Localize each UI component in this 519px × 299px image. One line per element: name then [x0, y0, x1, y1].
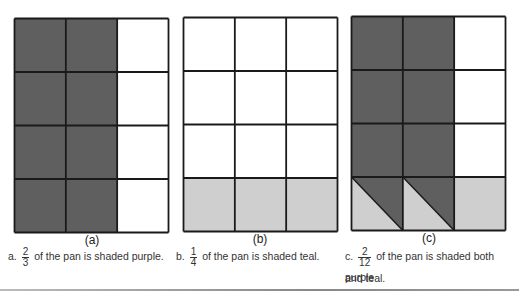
pan-grid-c [350, 15, 508, 232]
fraction-a-denominator: 3 [22, 258, 30, 268]
pan-grid-a [13, 17, 171, 234]
fraction-a: 23 [22, 247, 30, 268]
fraction-c-denominator: 12 [358, 258, 371, 268]
caption-b-text: of the pan is shaded teal. [202, 250, 319, 262]
fraction-b: 14 [190, 247, 198, 268]
caption-b-prefix: b. [176, 250, 185, 262]
panel-label-c: (c) [349, 231, 509, 245]
fraction-b-denominator: 4 [190, 258, 198, 268]
grid-a-svg [13, 17, 171, 234]
pan-grid-b [182, 16, 340, 233]
caption-c-line2: and teal. [345, 269, 385, 287]
caption-a-prefix: a. [8, 250, 17, 262]
bottom-divider [0, 289, 519, 291]
panel-label-a: (a) [12, 233, 172, 247]
caption-c-prefix: c. [345, 250, 353, 262]
fraction-c: 212 [358, 247, 371, 268]
grid-c-svg [350, 15, 508, 232]
caption-a: a. 23 of the pan is shaded purple. [8, 247, 164, 268]
panel-label-b: (b) [180, 232, 340, 246]
grid-b-svg [182, 16, 340, 233]
caption-b: b. 14 of the pan is shaded teal. [176, 247, 320, 268]
caption-a-text: of the pan is shaded purple. [34, 250, 164, 262]
